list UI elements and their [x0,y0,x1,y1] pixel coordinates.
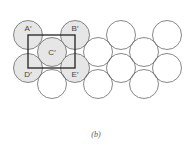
circle-packing-diagram: A′B′C′D′E′ [0,0,192,145]
atom-label: A′ [25,24,32,33]
figure-caption: (b) [0,130,192,139]
atom-label: D′ [24,70,32,79]
atom-circle [38,70,67,99]
circles-layer [14,21,182,99]
atom-label: E′ [72,70,79,79]
atom-circle [84,70,113,99]
atom-circle [130,70,159,99]
atom-label: C′ [48,48,56,57]
atom-label: B′ [72,24,79,33]
